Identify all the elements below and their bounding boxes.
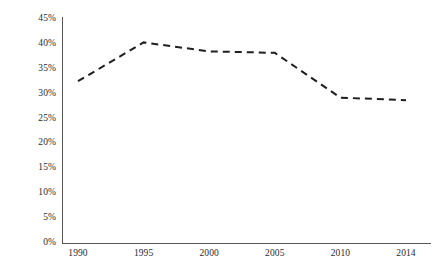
data-series-line [78, 42, 406, 100]
line-chart: 45% 40% 35% 30% 25% 20% 15% 10% 5% 0% 19… [0, 0, 447, 270]
series-layer [0, 0, 447, 270]
